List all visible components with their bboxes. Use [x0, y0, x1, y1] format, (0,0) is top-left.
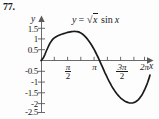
- equation-equals: =: [76, 14, 86, 25]
- y-tick-label-neg0.5: -0.5: [25, 67, 38, 76]
- x-tick-label-pi: π: [90, 63, 99, 72]
- equation-trig: sin: [98, 14, 113, 25]
- x-tick-label-pi-over-2: π 2: [61, 63, 75, 81]
- sqrt-radicand: x: [93, 13, 98, 25]
- y-axis: [38, 16, 44, 113]
- y-tick-label-0.5: 0.5: [28, 46, 38, 55]
- y-axis-label: y: [31, 15, 35, 24]
- y-tick-label-neg2.5: -2.5: [25, 108, 38, 117]
- sqrt-expression: √x: [86, 13, 98, 25]
- equation-annotation: y=√xsinx: [72, 13, 119, 25]
- x-tick-label-2pi: 2π: [138, 63, 151, 72]
- fraction-pi-over-2: π 2: [65, 63, 72, 80]
- figure-container: 77.: [0, 0, 159, 119]
- fraction-3pi-over-2: 3π 2: [116, 63, 127, 80]
- x-tick-label-3pi-over-2: 3π 2: [113, 63, 131, 81]
- y-tick-label-neg1.5: -1.5: [25, 89, 38, 98]
- y-tick-label-1: 1: [34, 35, 38, 44]
- y-axis-arrowhead: [38, 16, 44, 23]
- y-tick-label-neg1: -1: [31, 78, 38, 87]
- y-tick-label-1.5: 1.5: [28, 25, 38, 34]
- equation-argument: x: [113, 14, 119, 25]
